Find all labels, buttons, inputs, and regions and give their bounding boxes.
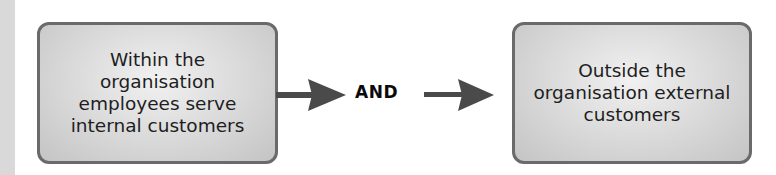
internal-customers-label: Within the organisation employees serve … <box>71 49 245 137</box>
internal-customers-box: Within the organisation employees serve … <box>37 22 278 164</box>
external-customers-label: Outside the organisation external custom… <box>534 60 731 126</box>
arrow-right-icon <box>276 78 348 112</box>
and-connector-label: AND <box>355 82 398 102</box>
external-customers-box: Outside the organisation external custom… <box>512 22 752 164</box>
page-margin-strip <box>0 0 15 175</box>
arrow-right-icon <box>424 78 496 112</box>
